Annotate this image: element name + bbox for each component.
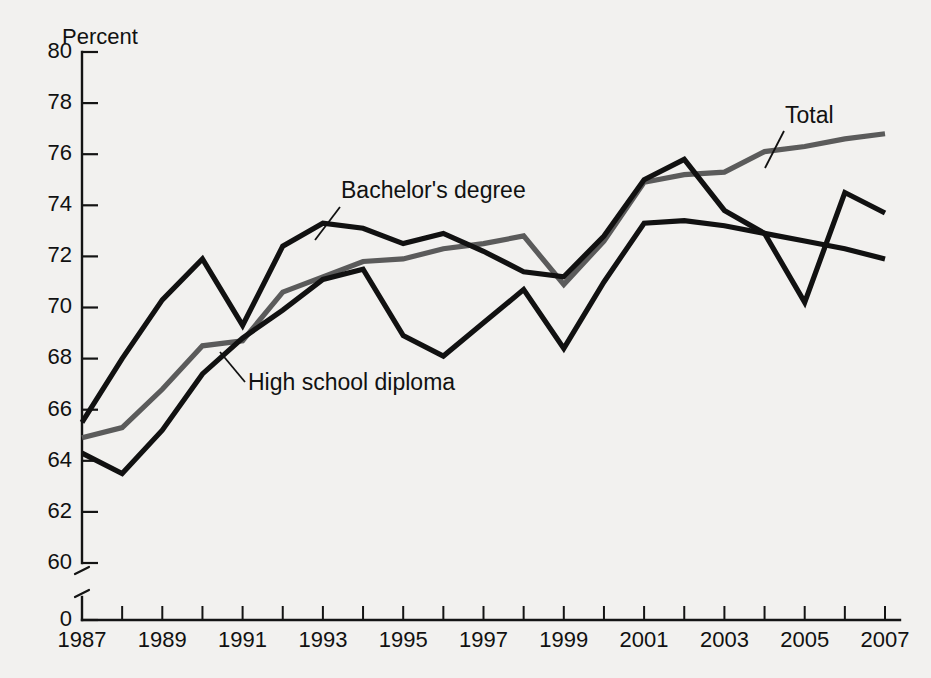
x-axis-tick-label: 2005 — [780, 627, 829, 652]
annotation-group: Bachelor's degreeHigh school diplomaTota… — [220, 102, 834, 395]
y-axis-tick-label: 76 — [48, 140, 72, 165]
y-axis-tick-label: 70 — [48, 293, 72, 318]
y-axis-tick-label: 60 — [48, 549, 72, 574]
axis-break-icon — [75, 567, 89, 597]
x-axis-tick-label: 1993 — [298, 627, 347, 652]
x-axis-tick-label: 2007 — [861, 627, 910, 652]
y-axis-tick-label: 62 — [48, 498, 72, 523]
x-axis-tick-label: 1987 — [58, 627, 107, 652]
axis-frame — [75, 52, 900, 620]
x-axis-tick-label: 2001 — [620, 627, 669, 652]
y-axis-tick-label: 78 — [48, 89, 72, 114]
y-axis-tick-label: 66 — [48, 396, 72, 421]
x-axis: 1987198919911993199519971999200120032005… — [58, 606, 910, 652]
y-axis-tick-label: 80 — [48, 38, 72, 63]
x-axis-tick-label: 1995 — [379, 627, 428, 652]
series-label-high-school-diploma: High school diploma — [248, 369, 455, 395]
chart-figure: Percent 80787674727068666462600 19871989… — [0, 0, 931, 678]
x-axis-tick-label: 2003 — [700, 627, 749, 652]
y-axis-tick-label: 68 — [48, 344, 72, 369]
y-axis: 80787674727068666462600 — [48, 38, 98, 631]
x-axis-tick-label: 1997 — [459, 627, 508, 652]
x-axis-tick-label: 1991 — [218, 627, 267, 652]
annotation-leader-line — [220, 352, 245, 382]
y-axis-tick-label: 72 — [48, 242, 72, 267]
series-label-total: Total — [785, 102, 834, 128]
y-axis-tick-label: 74 — [48, 191, 72, 216]
series-label-bachelor-s-degree: Bachelor's degree — [341, 177, 526, 203]
x-axis-tick-label: 1989 — [138, 627, 187, 652]
line-chart: Percent 80787674727068666462600 19871989… — [0, 0, 931, 678]
y-axis-tick-label: 64 — [48, 447, 72, 472]
y-axis-title-group: Percent — [62, 24, 138, 49]
y-axis-title: Percent — [62, 24, 138, 49]
x-axis-tick-label: 1999 — [539, 627, 588, 652]
